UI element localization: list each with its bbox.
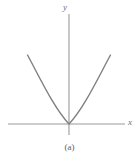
y-axis-label: y (63, 3, 67, 12)
figure-container: y x (a) (0, 0, 139, 163)
coordinate-plot-svg (0, 0, 139, 140)
x-axis-label: x (128, 118, 132, 127)
plot-area (0, 0, 139, 140)
figure-caption: (a) (0, 143, 139, 152)
